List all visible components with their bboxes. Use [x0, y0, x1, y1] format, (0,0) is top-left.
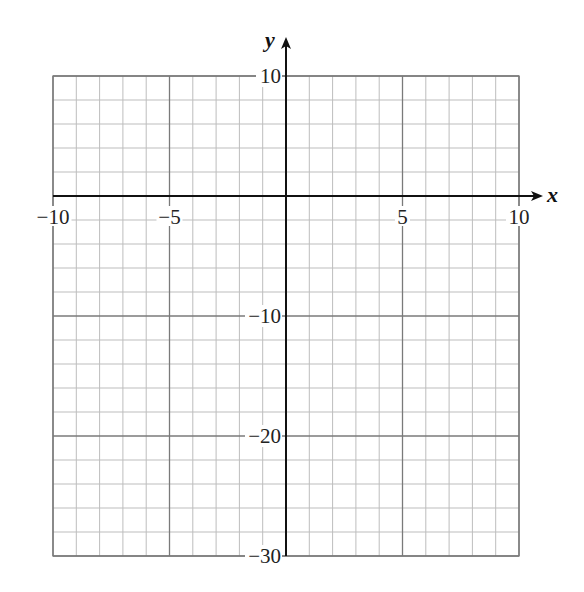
- axes: [53, 37, 543, 556]
- x-axis-label: x: [546, 182, 558, 207]
- y-tick-label: −10: [248, 304, 281, 328]
- y-tick-label: 10: [260, 64, 281, 88]
- y-tick-label: −20: [248, 424, 281, 448]
- y-tick-label: −30: [248, 544, 281, 568]
- coordinate-grid: −10−551010−10−20−30 x y: [0, 0, 584, 592]
- x-tick-label: −10: [37, 205, 70, 229]
- y-axis-label: y: [262, 27, 275, 52]
- x-tick-label: 5: [397, 205, 408, 229]
- x-tick-label: −5: [158, 205, 180, 229]
- x-tick-label: 10: [509, 205, 530, 229]
